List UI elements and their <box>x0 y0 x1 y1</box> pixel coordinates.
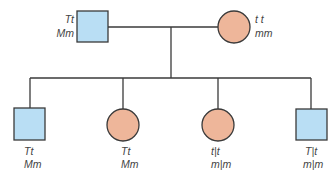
child-1-node: Tt Mm <box>14 108 45 170</box>
male-square-icon <box>296 109 327 140</box>
child-4-genotype-2: m|m <box>303 158 323 170</box>
child-3-node: t|t m|m <box>202 109 234 170</box>
child-4-genotype-1: T|t <box>305 145 318 157</box>
female-circle-icon <box>202 109 234 141</box>
child-3-genotype-2: m|m <box>211 158 231 170</box>
father-genotype-1: Tt <box>65 13 75 25</box>
child-1-genotype-1: Tt <box>24 145 34 157</box>
child-3-genotype-1: t|t <box>211 145 221 157</box>
child-2-node: Tt Mm <box>107 109 139 170</box>
child-2-genotype-2: Mm <box>121 158 139 170</box>
child-4-node: T|t m|m <box>296 109 327 170</box>
female-circle-icon <box>218 11 250 43</box>
female-circle-icon <box>107 109 139 141</box>
male-square-icon <box>77 11 108 42</box>
mother-genotype-2: mm <box>255 27 273 39</box>
mother-genotype-1: t t <box>255 13 265 25</box>
pedigree-chart: Tt Mm t t mm Tt Mm Tt Mm t|t m|m T|t m|m <box>0 0 334 179</box>
child-2-genotype-1: Tt <box>121 145 131 157</box>
pedigree-lines <box>30 27 311 109</box>
child-1-genotype-2: Mm <box>24 158 42 170</box>
father-node: Tt Mm <box>57 11 109 42</box>
male-square-icon <box>14 108 45 140</box>
father-genotype-2: Mm <box>57 27 75 39</box>
mother-node: t t mm <box>218 11 273 43</box>
